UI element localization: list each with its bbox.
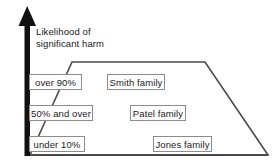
axis-label-line1: Likelihood of bbox=[36, 26, 104, 38]
axis-label: Likelihood of significant harm bbox=[36, 26, 104, 49]
family-box-smith: Smith family bbox=[107, 74, 165, 90]
likelihood-box-under-10: under 10% bbox=[29, 136, 85, 152]
likelihood-box-50-and-over: 50% and over bbox=[29, 105, 93, 121]
axis-label-line2: significant harm bbox=[36, 38, 104, 50]
family-box-jones: Jones family bbox=[153, 136, 212, 152]
likelihood-box-over-90: over 90% bbox=[29, 74, 82, 90]
diagram-canvas: Likelihood of significant harm over 90% … bbox=[0, 0, 274, 168]
family-box-patel: Patel family bbox=[130, 105, 186, 121]
